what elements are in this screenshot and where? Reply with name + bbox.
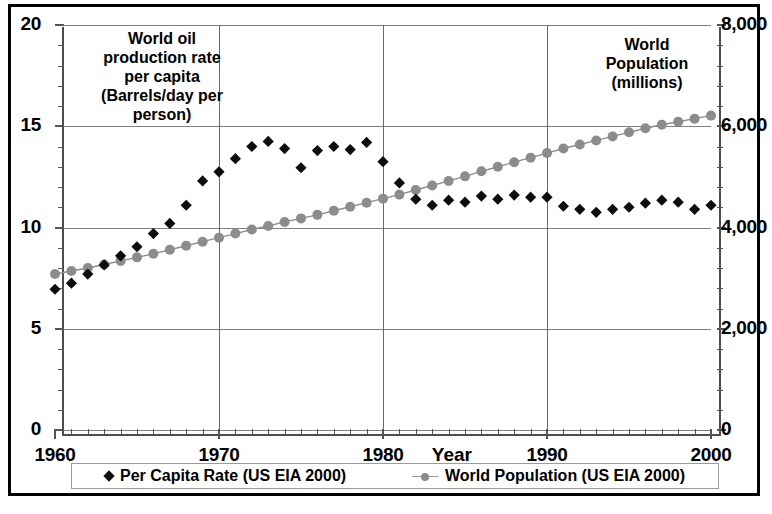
population-point — [526, 153, 536, 163]
per-capita-point — [607, 204, 618, 215]
legend-label-world-population: World Population (US EIA 2000) — [445, 467, 685, 485]
population-point — [296, 213, 306, 223]
per-capita-point — [656, 195, 667, 206]
circle-line-marker-icon — [412, 472, 438, 481]
population-point — [312, 210, 322, 220]
per-capita-point — [312, 145, 323, 156]
per-capita-point — [279, 143, 290, 154]
per-capita-point — [49, 284, 60, 295]
per-capita-point — [459, 197, 470, 208]
per-capita-point — [689, 204, 700, 215]
population-point — [460, 171, 470, 181]
per-capita-point — [525, 192, 536, 203]
population-point — [181, 241, 191, 251]
per-capita-point — [181, 200, 192, 211]
per-capita-point — [705, 200, 716, 211]
population-point — [132, 252, 142, 262]
population-point — [657, 120, 667, 130]
per-capita-point — [230, 153, 241, 164]
chart-plot-series — [11, 7, 763, 499]
chart-outer-frame: 05101520 02,0004,0006,0008,000 196019701… — [8, 4, 760, 496]
per-capita-point — [164, 218, 175, 229]
per-capita-point — [558, 201, 569, 212]
per-capita-point — [345, 144, 356, 155]
per-capita-point — [131, 241, 142, 252]
population-point — [608, 131, 618, 141]
population-point — [575, 139, 585, 149]
population-point — [444, 176, 454, 186]
per-capita-point — [377, 156, 388, 167]
per-capita-point — [213, 166, 224, 177]
per-capita-point — [263, 136, 274, 147]
population-point — [509, 157, 519, 167]
population-point — [247, 225, 257, 235]
population-point — [690, 114, 700, 124]
diamond-marker-icon — [103, 470, 114, 481]
per-capita-point — [476, 191, 487, 202]
population-point — [542, 148, 552, 158]
per-capita-point — [623, 202, 634, 213]
per-capita-point — [427, 200, 438, 211]
population-point — [411, 185, 421, 195]
legend-label-per-capita: Per Capita Rate (US EIA 2000) — [120, 467, 346, 485]
population-point — [66, 266, 76, 276]
population-point — [50, 269, 60, 279]
population-point — [624, 127, 634, 137]
per-capita-point — [410, 194, 421, 205]
population-point — [476, 166, 486, 176]
per-capita-point — [640, 198, 651, 209]
population-point — [706, 111, 716, 121]
population-point — [640, 123, 650, 133]
per-capita-point — [591, 207, 602, 218]
population-point — [214, 233, 224, 243]
chart-legend: Per Capita Rate (US EIA 2000) World Popu… — [71, 463, 719, 489]
per-capita-point — [148, 228, 159, 239]
population-point — [362, 198, 372, 208]
per-capita-point — [99, 259, 110, 270]
population-point — [263, 221, 273, 231]
population-point — [148, 249, 158, 259]
legend-item-world-population[interactable]: World Population (US EIA 2000) — [412, 467, 685, 485]
population-point — [493, 162, 503, 172]
population-point — [673, 117, 683, 127]
population-point — [329, 206, 339, 216]
per-capita-point — [328, 141, 339, 152]
per-capita-point — [394, 177, 405, 188]
population-point — [378, 194, 388, 204]
population-point — [230, 229, 240, 239]
population-point — [345, 202, 355, 212]
population-point — [165, 245, 175, 255]
per-capita-point — [492, 194, 503, 205]
per-capita-point — [673, 197, 684, 208]
per-capita-point — [509, 190, 520, 201]
per-capita-point — [66, 278, 77, 289]
population-point — [394, 190, 404, 200]
chart-figure: 05101520 02,0004,0006,0008,000 196019701… — [0, 0, 772, 514]
population-point — [558, 144, 568, 154]
per-capita-point — [574, 204, 585, 215]
population-point — [280, 217, 290, 227]
per-capita-point — [197, 175, 208, 186]
population-point — [591, 135, 601, 145]
per-capita-point — [443, 195, 454, 206]
per-capita-point — [246, 141, 257, 152]
per-capita-point — [295, 162, 306, 173]
per-capita-point — [541, 192, 552, 203]
per-capita-point — [361, 137, 372, 148]
population-point — [198, 237, 208, 247]
legend-item-per-capita[interactable]: Per Capita Rate (US EIA 2000) — [105, 467, 346, 485]
population-point — [427, 180, 437, 190]
